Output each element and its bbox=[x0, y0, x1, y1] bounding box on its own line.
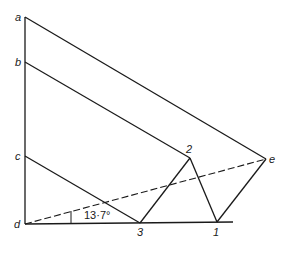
label-e: e bbox=[269, 153, 275, 165]
label-a: a bbox=[15, 11, 21, 23]
label-c: c bbox=[15, 150, 21, 162]
dashed-line-de bbox=[25, 159, 266, 224]
line-b2 bbox=[25, 62, 190, 158]
line-c3 bbox=[25, 156, 140, 223]
label-3: 3 bbox=[137, 226, 144, 238]
label-d: d bbox=[14, 218, 21, 230]
line-1e bbox=[217, 159, 266, 222]
label-b: b bbox=[15, 56, 21, 68]
label-1: 1 bbox=[213, 226, 219, 238]
line-21 bbox=[190, 158, 217, 222]
line-ae bbox=[25, 17, 266, 159]
label-2: 2 bbox=[185, 143, 192, 155]
baseline bbox=[25, 222, 233, 224]
angle-label: 13·7° bbox=[84, 209, 110, 221]
force-polygon-diagram: a b c d e 2 3 1 13·7° bbox=[0, 0, 288, 253]
